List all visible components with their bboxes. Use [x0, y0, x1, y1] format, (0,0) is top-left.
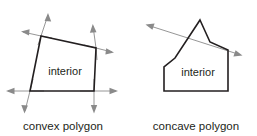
convex-extension-rays	[6, 13, 118, 114]
concave-interior-label: interior	[181, 66, 215, 78]
concave-polygon-panel: interior	[146, 20, 243, 91]
ray-top-left-up	[41, 13, 51, 36]
convex-interior-label: interior	[48, 65, 82, 77]
diagram-canvas: interior interior convex polygon concave…	[0, 0, 257, 136]
concave-polygon-shape	[164, 20, 228, 91]
ray-bottom-right-right	[94, 88, 118, 95]
secant-head-left	[146, 24, 155, 30]
concave-caption: concave polygon	[153, 120, 239, 132]
ray-top-right-up	[90, 24, 97, 48]
ray-top-right-down-right	[96, 48, 114, 55]
secant-head-right	[233, 50, 242, 56]
convex-polygon-panel: interior	[6, 13, 118, 114]
ray-bottom-right-down	[91, 91, 97, 114]
convex-polygon-shape	[30, 36, 96, 91]
ray-top-left-left	[21, 29, 41, 36]
convex-caption: convex polygon	[23, 120, 103, 132]
ray-bottom-left-left	[6, 88, 30, 95]
polygon-comparison-figure: interior interior convex polygon concave…	[0, 0, 257, 136]
ray-bottom-left-down	[21, 91, 30, 114]
